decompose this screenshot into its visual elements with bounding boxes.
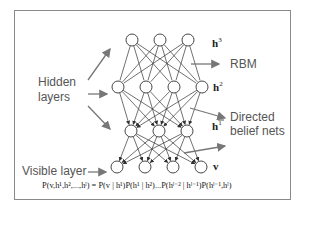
node-h1-2 [181, 125, 193, 137]
joint-probability-formula: P(v,h¹,h²,...,hˡ) = P(v | h¹)P(h¹ | h²).… [42, 180, 231, 190]
node-h3-0 [126, 34, 138, 46]
node-h2-1 [140, 81, 152, 93]
edge-h2-h1 [136, 91, 170, 126]
edge-h3-h2 [124, 43, 183, 83]
visible-layer-label: Visible layer [22, 165, 86, 177]
network-edges [120, 43, 201, 163]
edge-h2-h1 [122, 91, 154, 125]
h1-label: h1 [212, 119, 222, 132]
network-nodes [111, 34, 208, 173]
edge-h2-h1 [150, 91, 182, 125]
edge-h3-h2 [164, 44, 197, 81]
node-h3-1 [154, 34, 166, 46]
h3-label: h3 [212, 36, 222, 49]
node-v-3 [195, 161, 207, 173]
hidden-to-h3-arrow [88, 49, 110, 80]
node-v-1 [139, 161, 151, 173]
directed-line1: Directed [230, 110, 285, 124]
edge-h3-h2 [151, 44, 184, 81]
node-h1-1 [153, 125, 165, 137]
edge-h1-v [150, 135, 182, 163]
hidden-to-h1-arrow [88, 106, 110, 129]
directed-belief-nets-label: Directed belief nets [230, 110, 285, 138]
edge-h1-v [176, 137, 185, 161]
edge-h1-v [189, 137, 198, 161]
node-v-0 [111, 161, 123, 173]
edge-h3-h2 [136, 44, 169, 81]
node-h2-0 [112, 81, 124, 93]
h2-label: h2 [213, 80, 223, 93]
hidden-layers-line2: layers [38, 90, 76, 105]
edge-h1-v [120, 137, 129, 161]
edge-h3-h2 [123, 44, 156, 81]
node-h1-0 [125, 125, 137, 137]
directed-line2: belief nets [230, 124, 285, 138]
node-h2-2 [168, 81, 180, 93]
edge-h2-h1 [137, 90, 197, 127]
edge-h1-v [133, 137, 142, 161]
edge-h1-v [164, 135, 196, 163]
directed-arrow-upper [190, 108, 225, 118]
node-h2-3 [196, 81, 208, 93]
directed-arrow-lower [184, 146, 225, 153]
edge-h1-v [123, 134, 181, 164]
rbm-label: RBM [230, 58, 257, 70]
node-h3-2 [182, 34, 194, 46]
edge-h1-v [122, 135, 154, 163]
hidden-layers-label: Hidden layers [38, 75, 76, 105]
hidden-layers-line1: Hidden [38, 75, 76, 90]
edge-h2-h1 [176, 93, 185, 125]
v-label: v [213, 160, 219, 172]
node-v-2 [167, 161, 179, 173]
edge-h1-v [136, 135, 168, 163]
